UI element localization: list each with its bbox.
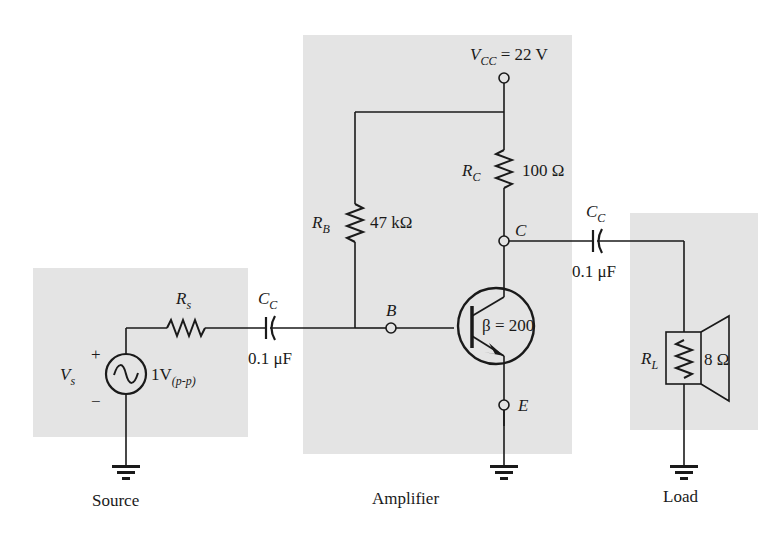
rs-subscript: s — [186, 298, 191, 312]
rc-value: 100 Ω — [522, 162, 564, 179]
input-cap-value: 0.1 μF — [248, 350, 292, 367]
ground-icon-amplifier — [490, 465, 518, 480]
rl-symbol: R — [641, 349, 651, 368]
rb-subscript: B — [322, 222, 329, 236]
output-cap-subscript: C — [597, 211, 605, 225]
node-b-label: B — [386, 302, 396, 319]
vcc-subscript: CC — [480, 54, 496, 68]
vs-subscript: s — [70, 374, 75, 388]
rl-value: 8 Ω — [704, 351, 729, 368]
rs-symbol: R — [176, 289, 186, 308]
rc-resistor-icon — [496, 150, 512, 188]
output-cap-value: 0.1 μF — [572, 263, 616, 280]
source-caption: Source — [92, 492, 139, 509]
beta-label: β = 200 — [482, 317, 534, 334]
rl-subscript: L — [651, 358, 658, 372]
load-caption: Load — [663, 488, 698, 505]
rc-subscript: C — [472, 170, 480, 184]
rc-symbol: R — [462, 161, 472, 180]
rb-value: 47 kΩ — [370, 214, 412, 231]
output-cap-label: CC — [586, 203, 605, 220]
node-c-label: C — [515, 222, 526, 239]
node-e-icon — [499, 400, 509, 410]
vcc-terminal-icon — [499, 73, 509, 83]
rs-label: Rs — [176, 290, 191, 307]
rs-resistor-icon — [167, 320, 205, 336]
rc-label: RC — [462, 162, 480, 179]
ground-icon-source — [112, 465, 140, 480]
circuit-diagram: + − Vs 1V(p-p) Rs CC 0.1 μF VCC = 22 V R… — [0, 0, 781, 537]
output-cap-symbol: C — [586, 202, 597, 221]
vs-value: 1V(p-p) — [151, 366, 196, 383]
amplifier-caption: Amplifier — [372, 490, 439, 507]
input-cap-symbol: C — [258, 289, 269, 308]
node-e-label: E — [518, 397, 528, 414]
input-cap-label: CC — [258, 290, 277, 307]
rb-label: RB — [312, 214, 330, 231]
rb-symbol: R — [312, 213, 322, 232]
vcc-value: = 22 V — [501, 45, 548, 64]
vs-symbol: V — [60, 365, 70, 384]
vs-amplitude-unit: (p-p) — [172, 374, 196, 388]
vcc-label: VCC = 22 V — [470, 46, 548, 63]
node-c-icon — [499, 236, 509, 246]
rb-resistor-icon — [347, 204, 363, 242]
vs-amplitude: 1V — [151, 365, 172, 384]
vcc-symbol: V — [470, 45, 480, 64]
node-b-icon — [386, 323, 396, 333]
schematic-wires — [0, 0, 781, 537]
minus-sign: − — [91, 393, 101, 410]
vs-label: Vs — [60, 366, 75, 383]
ground-icon-load — [670, 465, 698, 480]
input-cap-subscript: C — [269, 298, 277, 312]
plus-sign: + — [91, 346, 101, 363]
rl-label: RL — [641, 350, 658, 367]
sine-wave-icon — [114, 365, 138, 383]
